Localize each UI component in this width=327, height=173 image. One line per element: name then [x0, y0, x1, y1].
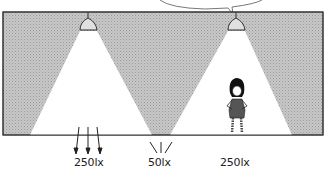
left-light-arrows-icon [74, 127, 102, 154]
left-illuminance-label: 250lx [74, 156, 104, 169]
middle-illuminance-label: 50lx [148, 156, 171, 169]
middle-light-arrows-icon [150, 142, 172, 153]
right-illuminance-label: 250lx [220, 156, 250, 169]
illumination-diagram [0, 0, 327, 173]
